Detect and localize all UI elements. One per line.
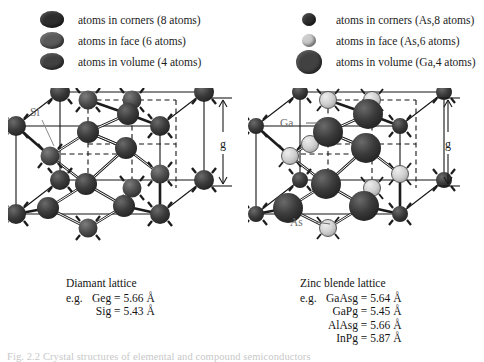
table-row: Si g = 5.43 Å [66,305,155,319]
legend-item-label: atoms in corners (8 atoms) [78,14,201,26]
eg-spacer [300,319,326,333]
atom-circle-mid-icon [40,32,64,49]
figure-root: atoms in corners (8 atoms) atoms in face… [0,0,484,362]
legend-item-face: atoms in face (6 atoms) [40,30,201,51]
legend-diamond: atoms in corners (8 atoms) atoms in face… [40,9,201,72]
material-value: g = 5.45 Å [352,305,401,319]
swatch-slot [292,34,326,47]
material-value: g = 5.66 Å [105,292,154,306]
caption-diamond: Diamant lattice e.g. Ge g = 5.66 Å Si g … [66,277,155,319]
table-row: AlAs g = 5.66 Å [300,319,402,333]
legend-item-corners: atoms in corners (As,8 atoms) [292,9,476,30]
material-value: g = 5.64 Å [352,292,401,306]
dimension-g-label: g [445,137,451,151]
legend-item-volume: atoms in volume (Ga,4 atoms) [292,51,476,72]
caption-material-table: e.g. Ge g = 5.66 Å Si g = 5.43 Å [66,292,155,319]
material-value: g = 5.66 Å [352,319,401,333]
caption-zinc-blende: Zinc blende lattice e.g. GaAs g = 5.64 Å… [300,277,402,346]
eg-label: e.g. [300,292,326,306]
swatch-slot [292,50,326,74]
legend-item-label: atoms in corners (As,8 atoms) [336,14,474,26]
figure-caption: Fig. 2.2 Crystal structures of elemental… [7,351,311,362]
ga-label: Ga [280,117,293,129]
atom-circle-dark-small-icon [302,13,316,26]
material-name: Ge [92,292,105,306]
legend-item-label: atoms in volume (4 atoms) [78,56,201,68]
eg-spacer [300,305,326,319]
material-name: AlAs [326,319,352,333]
legend-zinc-blende: atoms in corners (As,8 atoms) atoms in f… [292,9,476,72]
as-label: As [290,216,303,228]
atom-circle-dark-large-icon [296,50,322,74]
eg-spacer [300,332,326,346]
material-name: GaP [326,305,352,319]
atom-circle-volume-icon [40,53,64,70]
atom-circle-dark-icon [40,11,64,28]
swatch-slot [292,13,326,26]
atom-circle-light-small-icon [302,34,316,47]
dimension-g-label: g [220,137,226,151]
zinc-blende-lattice-diagram: Ga As g [248,88,484,273]
material-value: g = 5.87 Å [352,332,401,346]
material-name: Si [92,305,105,319]
table-row: InP g = 5.87 Å [300,332,402,346]
material-name: GaAs [326,292,352,306]
diamond-lattice-diagram: Si g [8,88,248,273]
si-label: Si [30,106,40,118]
caption-title: Zinc blende lattice [300,277,402,291]
table-row: e.g. Ge g = 5.66 Å [66,292,155,306]
caption-material-table: e.g. GaAs g = 5.64 Å GaP g = 5.45 Å AlAs… [300,292,402,346]
eg-label: e.g. [66,292,92,306]
legend-item-label: atoms in face (As,6 atoms) [336,35,460,47]
material-value: g = 5.43 Å [105,305,154,319]
legend-item-label: atoms in volume (Ga,4 atoms) [336,56,476,68]
legend-item-volume: atoms in volume (4 atoms) [40,51,201,72]
legend-item-corners: atoms in corners (8 atoms) [40,9,201,30]
material-name: InP [326,332,352,346]
eg-spacer [66,305,92,319]
table-row: GaP g = 5.45 Å [300,305,402,319]
legend-item-label: atoms in face (6 atoms) [78,35,186,47]
caption-title: Diamant lattice [66,277,155,291]
legend-item-face: atoms in face (As,6 atoms) [292,30,476,51]
table-row: e.g. GaAs g = 5.64 Å [300,292,402,306]
